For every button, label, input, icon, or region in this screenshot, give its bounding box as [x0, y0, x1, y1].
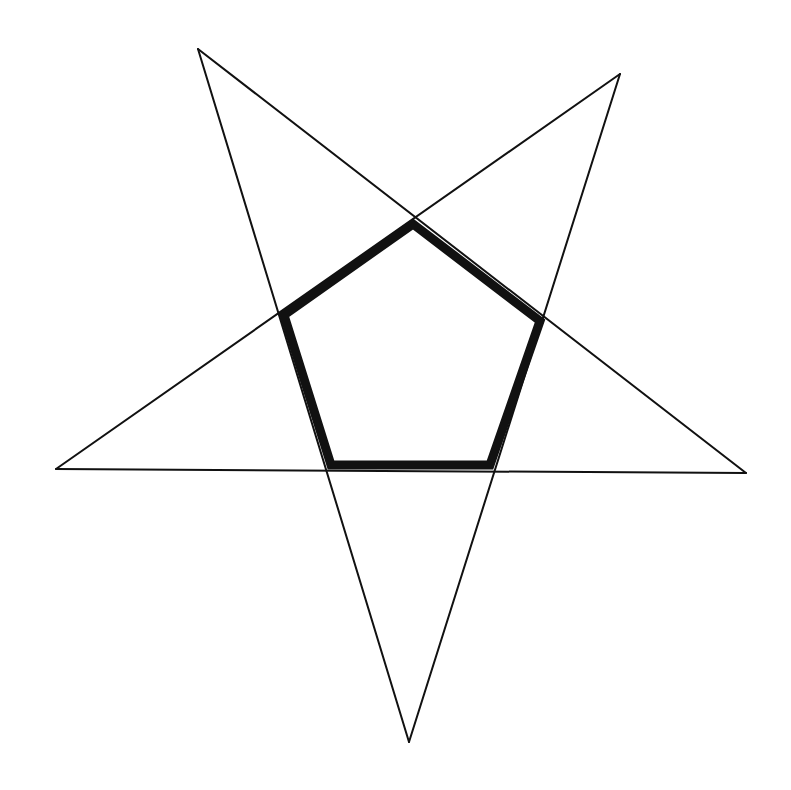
background — [0, 0, 791, 790]
pentagram-diagram — [0, 0, 791, 790]
